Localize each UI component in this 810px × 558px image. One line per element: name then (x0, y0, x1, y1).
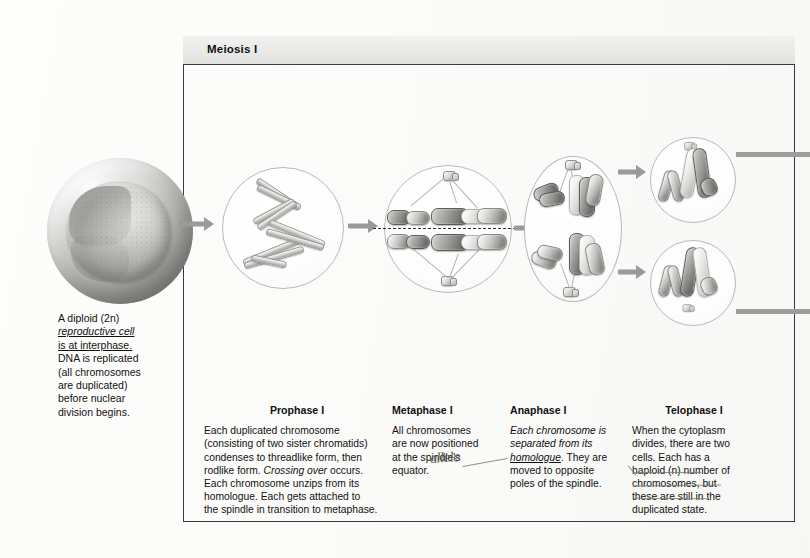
chromatin-texture (67, 182, 171, 282)
panel-title: Meiosis I (207, 43, 257, 55)
anaphase-1-line-4: poles of the spindle. (510, 478, 602, 489)
anaphase-1-line-2: homologue. They are (510, 452, 607, 463)
arrow-right-icon-2 (348, 218, 380, 234)
metaphase-1-title: Metaphase I (392, 404, 504, 417)
prophase-1-cell (222, 167, 344, 289)
spindle-fiber-icon (450, 178, 478, 208)
anaphase-1-caption: Anaphase I Each chromosome is separated … (510, 404, 630, 490)
telophase-1-line-6: duplicated state. (632, 504, 707, 515)
metaphase-1-line-3: equator. (392, 465, 429, 476)
handwritten-annotation: allele (430, 449, 461, 466)
interphase-line-5: are duplicated) (58, 379, 127, 391)
interphase-line-0: A diploid (2n) (58, 312, 119, 324)
anaphase-1-line-3: moved to opposite (510, 465, 594, 476)
metaphase-1-caption: Metaphase I All chromosomes are now posi… (392, 404, 504, 477)
prophase-1-line-0: Each duplicated chromosome (204, 425, 340, 436)
chromosome-pair-lower-right (431, 232, 507, 252)
telophase-1-line-1: divides, there are two (632, 438, 730, 449)
equator-dashed-line (373, 228, 521, 229)
telophase-1-daughter-cell-bottom (650, 240, 736, 326)
cell-membrane (47, 158, 193, 304)
telophase-1-title: Telophase I (632, 404, 756, 417)
prophase-1-line-3: rodlike form. Crossing over occurs. (204, 465, 363, 476)
telophase-1-line-2: cells. Each has a (632, 452, 710, 463)
spindle-fiber-icon (413, 249, 447, 278)
prophase-1-line-1: (consisting of two sister chromatids) (204, 438, 368, 449)
interphase-line-3: DNA is replicated (58, 352, 139, 364)
anaphase-1-line-1: separated from its (510, 438, 592, 449)
panel-header: Meiosis I (183, 36, 795, 65)
chromosome-pair-upper-left (387, 210, 431, 226)
bivalent-upper (251, 184, 309, 228)
arrow-right-icon-4 (618, 164, 648, 180)
output-rule-bottom (736, 309, 810, 314)
interphase-line-1: reproductive cell (58, 325, 134, 337)
metaphase-1-line-0: All chromosomes (392, 425, 471, 436)
homologue-underlined: homologue (510, 452, 561, 463)
prophase-1-line-4: Each chromosome unzips from its (204, 478, 359, 489)
prophase-1-title: Prophase I (204, 404, 390, 417)
chromosome-top-right (563, 173, 605, 223)
prophase-1-caption: Prophase I Each duplicated chromosome (c… (204, 404, 390, 517)
prophase-1-line-5: homologue. Each gets attached to (204, 491, 360, 502)
centriole-icon (683, 304, 693, 312)
telophase-1-line-3: haploid (n) number of (632, 465, 730, 476)
arrow-right-icon-1 (178, 216, 216, 232)
interphase-line-4: (all chromosomes (58, 366, 141, 378)
chromosome-large-x (679, 247, 721, 303)
metaphase-1-line-1: are now positioned (392, 438, 478, 449)
crossing-over-italic: Crossing over (264, 465, 328, 476)
telophase-1-caption: Telophase I When the cytoplasm divides, … (632, 404, 756, 517)
prophase-1-line-2: condenses to threadlike form, then (204, 452, 362, 463)
chromosome-large-x (679, 148, 721, 204)
spindle-fiber-icon (411, 177, 445, 206)
output-rule-top (736, 152, 810, 157)
interphase-line-7: division begins. (58, 406, 130, 418)
interphase-line-6: before nuclear (58, 392, 125, 404)
telophase-1-line-4: chromosomes, but (632, 478, 717, 489)
diagram-root: Meiosis I A diploid (2n) reproductive ce… (0, 0, 810, 558)
telophase-1-line-0: When the cytoplasm (632, 425, 725, 436)
telophase-1-line-5: these are still in the (632, 491, 721, 502)
bivalent-lower (241, 224, 329, 276)
arrow-right-icon-5 (618, 264, 648, 280)
anaphase-1-cell (524, 156, 622, 302)
telophase-1-daughter-cell-top (650, 137, 736, 223)
nucleus (67, 182, 171, 282)
nucleus-shading-a (69, 186, 131, 246)
chromosome-bottom-right (561, 231, 605, 283)
anaphase-1-line-0: Each chromosome is (510, 425, 606, 436)
chromosome-pair-lower-left (387, 234, 431, 250)
spindle-fiber-icon (451, 249, 480, 278)
prophase-1-line-6: the spindle in transition to metaphase. (204, 504, 377, 515)
interphase-cell-illustration (47, 158, 193, 304)
anaphase-1-title: Anaphase I (510, 404, 630, 417)
chromosome-pair-upper-right (431, 206, 507, 226)
nucleus-shading-b (71, 234, 129, 282)
metaphase-1-cell (384, 165, 512, 293)
centriole-icon-bottom (563, 287, 576, 297)
interphase-caption: A diploid (2n) reproductive cell is at i… (58, 312, 188, 419)
interphase-line-2: is at interphase. (58, 339, 132, 351)
